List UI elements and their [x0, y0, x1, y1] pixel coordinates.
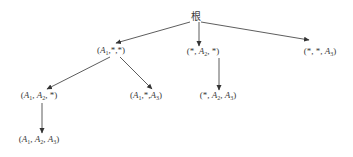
label-rest: ) — [159, 90, 162, 100]
separator: ,*, — [142, 90, 151, 100]
edge-n_a1-to-n_a1a2 — [47, 57, 110, 89]
node-a1a3: (A1,*,A3) — [130, 90, 162, 103]
node-a3: (*, *, A3) — [304, 46, 337, 59]
node-a1a2: (A1, A2, *) — [21, 90, 58, 103]
edge-root-to-n_a1 — [116, 22, 190, 43]
label-pre: (*, — [187, 46, 199, 56]
label-rest: ,*,*) — [109, 45, 126, 55]
label-rest: ) — [333, 46, 336, 56]
label-rest: ) — [233, 90, 236, 100]
node-a1a2a3: (A1, A2, A3) — [19, 134, 60, 147]
node-a2: (*, A2, *) — [187, 46, 220, 59]
root-node: 根 — [191, 12, 201, 22]
edge-root-to-n_a3 — [201, 22, 309, 40]
label-rest: , *) — [207, 46, 219, 56]
node-a2a3: (*, A2, A3) — [200, 90, 237, 103]
label-rest: , *) — [45, 90, 57, 100]
label-rest: ) — [56, 134, 59, 144]
node-a1: (A1,*,*) — [97, 45, 125, 58]
label-pre: (*, — [200, 90, 212, 100]
label-pre: (*, *, — [304, 46, 325, 56]
root-label: 根 — [191, 11, 201, 22]
edge-n_a1-to-n_a1a3 — [120, 57, 152, 89]
tree-diagram: 根 (A1,*,*) (*, A2, *) (*, *, A3) (A1, A2… — [0, 0, 353, 157]
